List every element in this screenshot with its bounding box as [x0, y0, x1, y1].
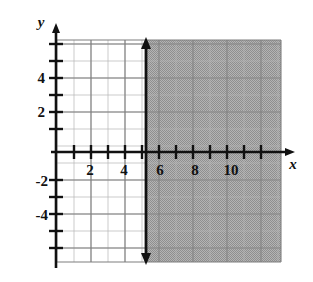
coordinate-plane-figure: 2 4 6 8 10 4 2 -2 -4 x y [0, 0, 313, 282]
y-tick-label-negative-2: -2 [36, 173, 49, 189]
y-tick-label-negative-4: -4 [36, 207, 49, 223]
x-axis-arrow-icon [285, 148, 295, 156]
y-axis-label: y [36, 14, 45, 30]
y-tick-label-4: 4 [38, 70, 46, 86]
x-axis-label: x [288, 156, 297, 172]
y-tick-label-2: 2 [38, 104, 46, 120]
x-tick-label-10: 10 [224, 162, 239, 178]
y-axis-arrow-icon [52, 23, 60, 33]
x-tick-label-4: 4 [120, 162, 128, 178]
x-tick-label-6: 6 [156, 162, 164, 178]
graph-svg: 2 4 6 8 10 4 2 -2 -4 x y [0, 0, 313, 282]
x-tick-label-8: 8 [191, 162, 199, 178]
x-tick-label-2: 2 [86, 162, 94, 178]
